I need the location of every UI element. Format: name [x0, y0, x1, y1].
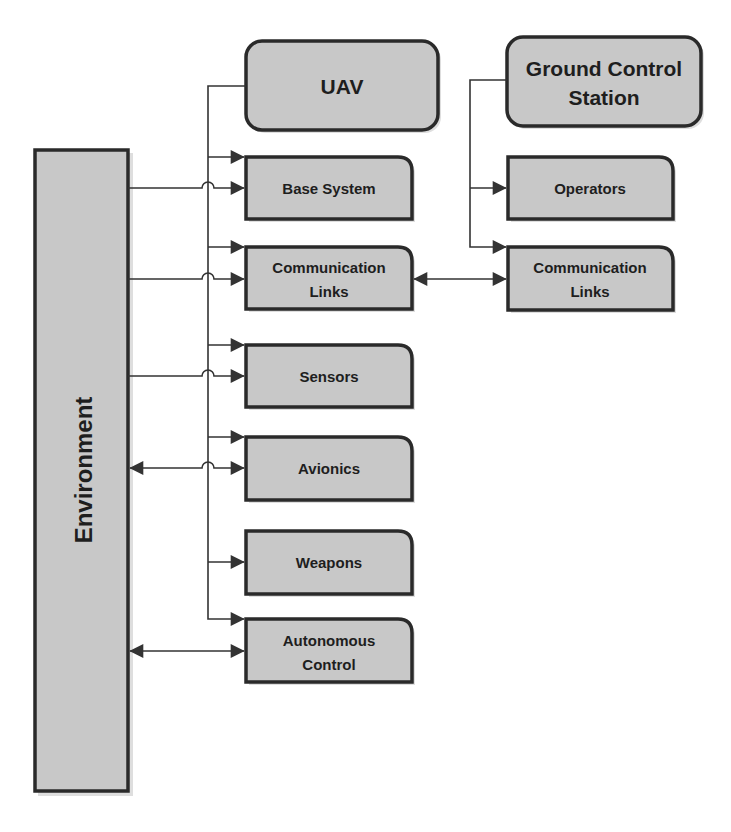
- operators-node: Operators: [508, 157, 676, 222]
- environment-label: Environment: [70, 397, 97, 544]
- avionics-node: Avionics: [246, 437, 415, 503]
- base-system-node: Base System: [246, 157, 415, 222]
- uav-bus-connectors: [208, 86, 246, 619]
- gcs-label-line1: Ground Control: [526, 57, 682, 80]
- weapons-label: Weapons: [296, 554, 362, 571]
- autonomous-control-label-line1: Autonomous: [283, 632, 375, 649]
- base-system-label: Base System: [282, 180, 375, 197]
- avionics-label: Avionics: [298, 460, 360, 477]
- gcs-comm-links-label-line1: Communication: [533, 259, 646, 276]
- sensors-node: Sensors: [246, 345, 415, 410]
- weapons-node: Weapons: [246, 531, 415, 597]
- gcs-communication-links-node: Communication Links: [508, 247, 676, 313]
- ground-control-station-node: Ground Control Station: [507, 37, 704, 129]
- autonomous-control-label-line2: Control: [302, 656, 355, 673]
- operators-label: Operators: [554, 180, 626, 197]
- environment-connectors: [128, 182, 244, 651]
- uav-comm-links-label-line2: Links: [309, 283, 348, 300]
- gcs-label-line2: Station: [568, 86, 639, 109]
- gcs-comm-links-label-line2: Links: [570, 283, 609, 300]
- uav-node: UAV: [246, 41, 441, 133]
- autonomous-control-node: Autonomous Control: [246, 619, 415, 685]
- uav-system-diagram: Environment UAV Ground Control Station B…: [0, 0, 731, 832]
- uav-comm-links-label-line1: Communication: [272, 259, 385, 276]
- environment-node: Environment: [35, 150, 133, 796]
- sensors-label: Sensors: [299, 368, 358, 385]
- uav-communication-links-node: Communication Links: [246, 247, 415, 312]
- uav-label: UAV: [321, 75, 364, 98]
- gcs-connectors: [470, 80, 507, 247]
